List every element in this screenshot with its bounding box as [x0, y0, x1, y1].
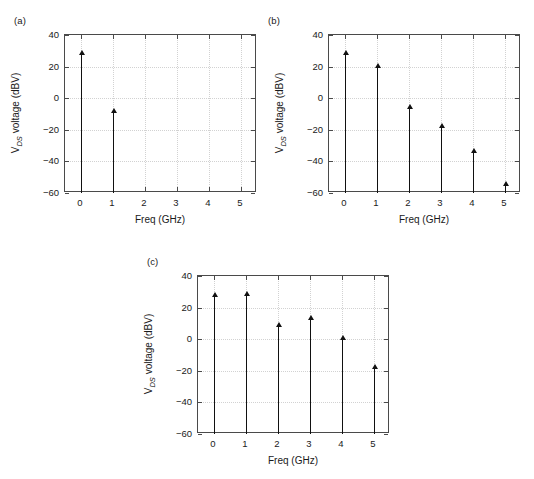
x-tick-label: 5 — [501, 197, 506, 208]
x-axis-title: Freq (GHz) — [135, 214, 185, 225]
x-tick-label: 3 — [437, 197, 442, 208]
x-axis-title: Freq (GHz) — [399, 214, 449, 225]
y-axis-tick — [515, 35, 519, 36]
stem-line — [246, 293, 247, 434]
y-axis-tick — [384, 276, 388, 277]
y-tick-label: −60 — [32, 187, 59, 198]
panel-b-label: (b) — [268, 15, 280, 26]
stem-line — [310, 318, 311, 434]
gridline-horizontal — [198, 308, 388, 309]
y-axis-tick — [515, 130, 519, 131]
stem-line — [409, 106, 410, 193]
y-tick-label: 0 — [296, 92, 323, 103]
panel-b-axes — [328, 34, 520, 192]
y-axis-title: VDS voltage (dBV) — [10, 73, 24, 153]
stem-marker — [471, 148, 477, 153]
y-axis-tick — [65, 193, 69, 194]
y-axis-tick — [65, 67, 69, 68]
y-axis-tick — [65, 98, 69, 99]
x-axis-tick — [209, 35, 210, 39]
gridline-horizontal — [65, 98, 255, 99]
stem-marker — [503, 181, 509, 186]
x-tick-label: 0 — [77, 197, 82, 208]
stem-line — [441, 126, 442, 193]
x-axis-tick — [441, 35, 442, 39]
x-tick-label: 1 — [373, 197, 378, 208]
stem-line — [278, 324, 279, 434]
stem-line — [377, 65, 378, 193]
stem-marker — [375, 63, 381, 68]
stem-marker — [343, 50, 349, 55]
x-axis-tick — [473, 35, 474, 39]
panel-c-label: (c) — [147, 256, 158, 267]
stem-line — [214, 294, 215, 434]
y-tick-label: 20 — [165, 301, 192, 312]
panel-a-axes — [64, 34, 256, 192]
gridline-vertical — [241, 35, 242, 191]
y-axis-tick — [198, 339, 202, 340]
gridline-horizontal — [65, 67, 255, 68]
figure-three-stem-plots: (a) 01234540200−20−40−60Freq (GHz)VDS vo… — [0, 0, 534, 479]
y-axis-tick — [251, 130, 255, 131]
y-axis-tick — [329, 98, 333, 99]
y-axis-tick — [329, 130, 333, 131]
stem-marker — [244, 291, 250, 296]
y-axis-tick — [329, 193, 333, 194]
gridline-horizontal — [65, 130, 255, 131]
y-axis-tick — [384, 434, 388, 435]
y-axis-title: VDS voltage (dBV) — [143, 314, 157, 394]
gridline-horizontal — [329, 98, 519, 99]
x-axis-tick — [377, 35, 378, 39]
stem-marker — [372, 364, 378, 369]
y-tick-label: −60 — [296, 187, 323, 198]
gridline-vertical — [145, 35, 146, 191]
y-axis-tick — [384, 402, 388, 403]
y-axis-tick — [65, 161, 69, 162]
y-tick-label: 40 — [32, 29, 59, 40]
x-tick-label: 0 — [210, 438, 215, 449]
gridline-vertical — [177, 35, 178, 191]
panel-a-label: (a) — [14, 15, 26, 26]
y-axis-tick — [198, 371, 202, 372]
x-axis-tick — [310, 276, 311, 280]
x-axis-tick — [342, 276, 343, 280]
x-tick-label: 1 — [242, 438, 247, 449]
gridline-horizontal — [198, 402, 388, 403]
x-axis-tick — [177, 35, 178, 39]
panel-c: (c) 01234540200−20−40−60Freq (GHz)VDS vo… — [133, 240, 401, 479]
x-axis-tick — [278, 276, 279, 280]
y-axis-tick — [384, 371, 388, 372]
y-tick-label: 0 — [165, 333, 192, 344]
y-tick-label: 20 — [296, 60, 323, 71]
x-axis-tick — [214, 276, 215, 280]
y-tick-label: −40 — [296, 155, 323, 166]
x-axis-tick — [241, 187, 242, 191]
y-axis-tick — [329, 67, 333, 68]
y-tick-label: −20 — [32, 123, 59, 134]
x-tick-label: 4 — [205, 197, 210, 208]
y-axis-tick — [515, 67, 519, 68]
x-tick-label: 3 — [173, 197, 178, 208]
x-tick-label: 5 — [370, 438, 375, 449]
y-axis-tick — [251, 67, 255, 68]
stem-line — [81, 52, 82, 193]
x-axis-tick — [246, 276, 247, 280]
stem-marker — [276, 322, 282, 327]
y-axis-tick — [198, 308, 202, 309]
x-tick-label: 1 — [109, 197, 114, 208]
y-axis-tick — [251, 98, 255, 99]
y-axis-tick — [384, 308, 388, 309]
stem-line — [345, 52, 346, 193]
gridline-vertical — [209, 35, 210, 191]
y-tick-label: 40 — [296, 29, 323, 40]
x-tick-label: 0 — [341, 197, 346, 208]
x-axis-tick — [145, 35, 146, 39]
stem-marker — [340, 335, 346, 340]
x-axis-tick — [409, 35, 410, 39]
y-axis-tick — [251, 193, 255, 194]
y-tick-label: 20 — [32, 60, 59, 71]
stem-marker — [79, 50, 85, 55]
gridline-horizontal — [198, 339, 388, 340]
stem-marker — [212, 292, 218, 297]
stem-line — [342, 338, 343, 434]
